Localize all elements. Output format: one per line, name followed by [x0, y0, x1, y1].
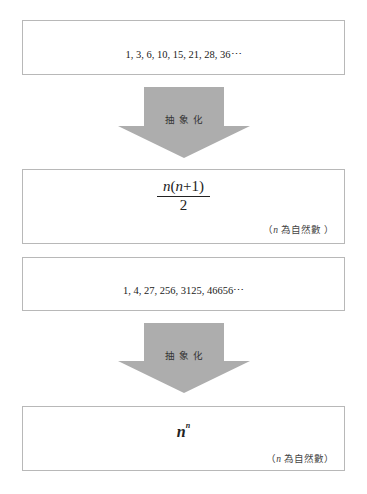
triangular-sequence: 1, 3, 6, 10, 15, 21, 28, 36⋯	[23, 48, 344, 60]
triangular-formula: n(n+1) 2	[23, 178, 344, 214]
natural-number-note-1: （n 為自然數 ）	[263, 222, 334, 236]
sequence-box-triangular: 1, 3, 6, 10, 15, 21, 28, 36⋯	[22, 20, 345, 75]
abstraction-label-1: 抽象化	[146, 112, 226, 126]
plus-one: +1)	[183, 178, 204, 194]
var-n-2: n	[176, 178, 184, 194]
abstraction-arrow-1: 抽象化	[0, 87, 367, 159]
power-formula: nn	[23, 423, 344, 441]
note-paren: （	[266, 453, 276, 464]
sequence-box-power: 1, 4, 27, 256, 3125, 46656⋯	[22, 257, 345, 311]
abstraction-arrow-2: 抽象化	[0, 323, 367, 395]
exponent-n: n	[186, 421, 190, 430]
note-text: 為自然數）	[281, 453, 334, 464]
power-sequence: 1, 4, 27, 256, 3125, 46656⋯	[23, 284, 344, 296]
abstraction-label-2: 抽象化	[146, 348, 226, 362]
note-text: 為自然數 ）	[278, 224, 334, 235]
formula-denominator: 2	[23, 197, 344, 214]
formula-numerator: n(n+1)	[157, 178, 210, 197]
note-paren: （	[263, 224, 273, 235]
base-n: n	[177, 423, 186, 440]
formula-box-triangular: n(n+1) 2 （n 為自然數 ）	[22, 169, 345, 244]
formula-box-power: nn （n 為自然數）	[22, 406, 345, 471]
natural-number-note-2: （n 為自然數）	[266, 451, 334, 465]
var-n: n	[163, 178, 171, 194]
